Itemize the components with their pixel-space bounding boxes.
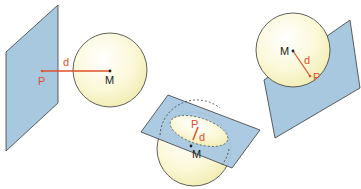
center-m-3 [292,50,295,53]
scene-intersect: P d M [141,95,260,186]
plane-1 [6,5,58,151]
center-m-1 [109,70,112,73]
sphere-plane-diagram: d P M P d M M d P [0,0,361,189]
center-m-2 [190,145,193,148]
label-m-2: M [192,148,201,160]
scene-tangent: M d P [256,13,360,138]
scene-outside: d P M [6,5,147,151]
label-d-1: d [63,56,69,68]
label-p-3: P [313,71,320,83]
label-m-1: M [105,74,114,86]
label-p-2: P [191,118,198,130]
label-p-1: P [38,75,45,87]
label-d-2: d [199,131,205,143]
point-p-1 [41,70,44,73]
point-p-3 [309,75,312,78]
label-m-3: M [280,45,289,57]
label-d-3: d [304,54,310,66]
